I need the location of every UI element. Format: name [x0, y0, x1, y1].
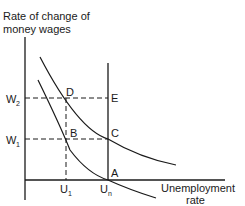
x-axis-label-line1: Unemployment: [161, 182, 235, 194]
y-axis-label-line2: money wages: [3, 23, 71, 35]
u1-label: U: [60, 183, 68, 195]
un-subscript: n: [108, 190, 112, 197]
y-axis-label-line1: Rate of change of: [3, 10, 91, 22]
u1-subscript: 1: [68, 190, 72, 197]
x-axis-label-line2: rate: [186, 194, 205, 206]
point-a-label: A: [111, 167, 119, 179]
un-label: U: [100, 183, 108, 195]
w2-subscript: 2: [16, 100, 20, 107]
phillips-curve-diagram: Rate of change of money wages W 2 W 1 U …: [0, 0, 245, 206]
point-b-label: B: [70, 127, 77, 139]
point-c-label: C: [111, 127, 119, 139]
w1-subscript: 1: [16, 141, 20, 148]
point-e-label: E: [111, 92, 118, 104]
point-d-label: D: [66, 86, 74, 98]
